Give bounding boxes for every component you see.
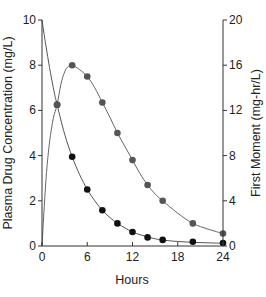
x-axis-title: Hours	[115, 273, 148, 287]
curves	[42, 20, 223, 246]
x-tick-label: 12	[126, 250, 140, 264]
y-tick-label: 8	[29, 58, 36, 72]
y2-tick-label: 20	[229, 13, 243, 27]
data-point	[84, 73, 91, 80]
y-tick-label: 2	[29, 194, 36, 208]
x-tick-label: 0	[39, 250, 46, 264]
pharmacokinetic-chart: 06121824 0246810 048121620 Hours Plasma …	[0, 0, 266, 297]
data-point	[129, 229, 136, 236]
data-markers	[54, 62, 227, 246]
data-point	[99, 207, 106, 214]
data-point	[129, 157, 136, 164]
y2-tick-label: 0	[229, 239, 236, 253]
y-tick-label: 0	[29, 239, 36, 253]
data-point	[190, 238, 197, 245]
data-point	[114, 220, 121, 227]
x-tick-label: 24	[216, 250, 230, 264]
left-y-axis-title: Plasma Drug Concentration (mg/L)	[1, 36, 15, 229]
right-y-axis-title: First Moment (mg-hr/L)	[249, 69, 263, 197]
y2-tick-label: 12	[229, 103, 243, 117]
data-point	[114, 130, 121, 137]
data-point	[159, 237, 166, 244]
y-tick-label: 4	[29, 149, 36, 163]
left-y-ticks: 0246810	[23, 13, 42, 253]
data-point	[84, 186, 91, 193]
data-point	[99, 99, 106, 106]
x-tick-label: 18	[171, 250, 185, 264]
data-point	[144, 182, 151, 189]
data-point	[159, 198, 166, 205]
series-curve-0	[42, 20, 223, 243]
right-y-ticks: 048121620	[223, 13, 243, 253]
x-ticks: 06121824	[39, 242, 230, 264]
data-point	[190, 220, 197, 227]
x-tick-label: 6	[84, 250, 91, 264]
data-point	[54, 101, 61, 108]
data-point	[69, 153, 76, 160]
y2-tick-label: 8	[229, 149, 236, 163]
data-point	[69, 62, 76, 69]
y2-tick-label: 4	[229, 194, 236, 208]
y-tick-label: 10	[23, 13, 37, 27]
data-point	[144, 234, 151, 241]
y-tick-label: 6	[29, 103, 36, 117]
y2-tick-label: 16	[229, 58, 243, 72]
